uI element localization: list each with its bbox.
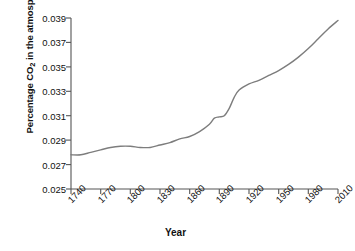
x-tick-label: 1740 [66,183,88,205]
x-tick-label: 1950 [274,183,296,205]
x-tick-label: 1860 [185,183,207,205]
x-tick-label: 1890 [214,183,236,205]
x-tick-label: 1980 [303,183,325,205]
x-tick-label: 1800 [125,183,147,205]
x-tick-label: 2010 [333,183,355,205]
x-tick-label: 1770 [96,183,118,205]
x-tick-label: 1920 [244,183,266,205]
x-tick-label: 1830 [155,183,177,205]
x-axis-title: Year [0,228,351,238]
